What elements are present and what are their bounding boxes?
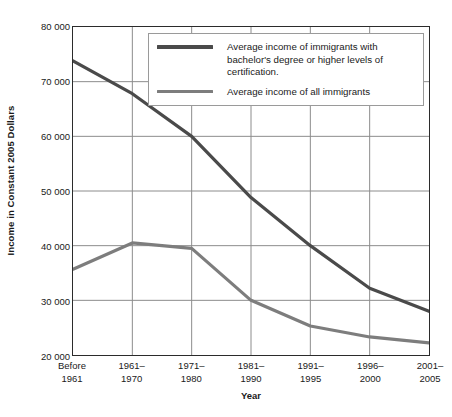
x-tick-label-line2: 2000 (357, 373, 383, 386)
x-tick-label: Before1961 (58, 360, 86, 385)
legend-label-line1: Average income of all immigrants (227, 86, 370, 97)
x-tick-label: 1971–1980 (178, 360, 204, 385)
legend-entry-label: Average income of all immigrants (227, 86, 370, 99)
x-tick-label-line2: 1970 (118, 373, 144, 386)
x-tick-label-line2: 1995 (297, 373, 323, 386)
x-tick-label-line2: 1990 (238, 373, 264, 386)
legend-swatch-icon (157, 90, 213, 94)
x-axis-tick-labels: Before19611961–19701971–19801981–1990199… (72, 360, 430, 394)
x-tick-label-line2: 1980 (178, 373, 204, 386)
legend-entry: Average income of all immigrants (157, 86, 414, 99)
x-tick-label-line1: 1961– (118, 360, 144, 371)
legend-entry: Average income of immigrants with bachel… (157, 41, 414, 79)
y-axis-title: Income in Constant 2005 Dollars (0, 0, 22, 360)
chart-legend: Average income of immigrants with bachel… (148, 33, 424, 106)
x-tick-label: 1981–1990 (238, 360, 264, 385)
y-axis-title-text: Income in Constant 2005 Dollars (6, 105, 17, 255)
y-tick-label: 40 000 (24, 241, 70, 252)
x-tick-label: 1991–1995 (297, 360, 323, 385)
x-tick-label-line1: 1991– (297, 360, 323, 371)
y-tick-label: 30 000 (24, 296, 70, 307)
y-tick-label: 60 000 (24, 131, 70, 142)
x-tick-label: 1996–2000 (357, 360, 383, 385)
y-tick-label: 70 000 (24, 76, 70, 87)
x-tick-label-line1: 2001– (417, 360, 443, 371)
x-tick-label: 1961–1970 (118, 360, 144, 385)
x-tick-label-line1: 1996– (357, 360, 383, 371)
series-line (73, 243, 429, 343)
x-tick-label-line1: Before (58, 360, 86, 371)
x-tick-label: 2001–2005 (417, 360, 443, 385)
x-tick-label-line2: 1961 (58, 373, 86, 386)
x-axis-title: Year (72, 390, 430, 401)
legend-entry-label: Average income of immigrants with bachel… (227, 41, 414, 79)
x-tick-label-line1: 1981– (238, 360, 264, 371)
income-line-chart: Income in Constant 2005 Dollars 80 000 7… (0, 0, 452, 417)
x-tick-label-line2: 2005 (417, 373, 443, 386)
x-tick-label-line1: 1971– (178, 360, 204, 371)
y-axis-tick-labels: 80 000 70 000 60 000 50 000 40 000 30 00… (20, 0, 70, 417)
y-tick-label: 80 000 (24, 21, 70, 32)
y-tick-label: 50 000 (24, 186, 70, 197)
legend-swatch-icon (157, 45, 213, 49)
